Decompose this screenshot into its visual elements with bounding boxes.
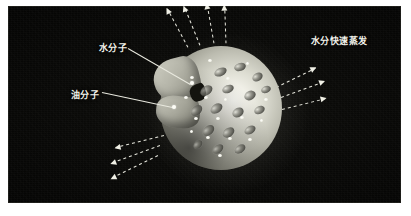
water-molecule bbox=[190, 76, 194, 79]
water-leader-endpoint bbox=[190, 81, 194, 85]
figure-root: 水分子 油分子 水分快速蒸发 bbox=[0, 0, 411, 216]
water-molecule bbox=[226, 77, 230, 80]
evaporation-arrow-icon bbox=[206, 6, 216, 44]
water-molecule bbox=[206, 136, 210, 139]
water-molecule bbox=[264, 98, 268, 101]
water-molecule bbox=[224, 98, 227, 101]
water-molecule bbox=[246, 62, 249, 65]
evaporation-arrow-icon bbox=[223, 6, 227, 44]
water-molecule bbox=[216, 117, 220, 120]
oil-leader-endpoint bbox=[172, 105, 176, 109]
water-molecule bbox=[218, 154, 222, 157]
water-molecule bbox=[190, 130, 193, 133]
photo-panel: 水分子 油分子 水分快速蒸发 bbox=[8, 6, 401, 203]
label-rapid-evaporation: 水分快速蒸发 bbox=[311, 36, 367, 47]
evaporation-arrow-icon bbox=[282, 97, 326, 111]
water-molecule bbox=[240, 116, 244, 119]
water-molecule bbox=[248, 138, 252, 141]
water-molecule bbox=[204, 96, 208, 99]
water-molecule bbox=[208, 59, 212, 62]
water-molecule bbox=[260, 119, 263, 122]
label-water-molecule: 水分子 bbox=[99, 43, 127, 54]
label-oil-molecule: 油分子 bbox=[71, 90, 99, 101]
water-molecule bbox=[184, 96, 188, 99]
droplet-sphere bbox=[160, 46, 282, 170]
water-molecule bbox=[228, 137, 232, 140]
water-molecule bbox=[194, 117, 198, 120]
